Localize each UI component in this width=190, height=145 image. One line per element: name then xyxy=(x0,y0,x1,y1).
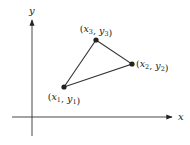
vertex-p3-label: (x3, y3) xyxy=(80,23,113,38)
y-axis-label: y xyxy=(28,5,35,16)
vertex-p1-label: (x1, y1) xyxy=(48,91,81,106)
triangle-coordinate-diagram: x y (x1, y1)(x2, y2)(x3, y3) xyxy=(0,0,190,145)
vertex-p3-dot xyxy=(93,37,98,42)
triangle xyxy=(64,40,132,87)
vertex-p2-label: (x2, y2) xyxy=(136,58,169,73)
vertex-p1-dot xyxy=(61,84,66,89)
x-axis-label: x xyxy=(178,111,184,122)
vertex-p2-dot xyxy=(129,61,134,66)
points-layer: (x1, y1)(x2, y2)(x3, y3) xyxy=(48,23,169,106)
